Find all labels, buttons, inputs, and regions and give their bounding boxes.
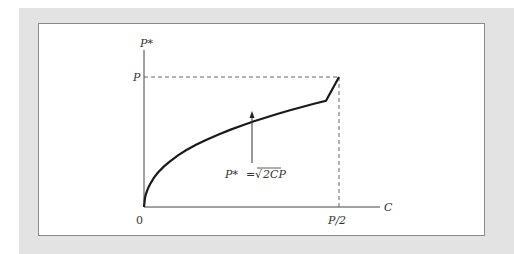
formula-lhs: P*: [224, 168, 238, 181]
x-axis-label: C: [384, 201, 393, 214]
formula-radicand: 2CP: [262, 168, 286, 181]
sqrt-curve: [144, 77, 339, 207]
y-tick-label-P: P: [132, 71, 141, 84]
formula-radical-sign: √: [255, 168, 263, 181]
y-axis-label: P*: [139, 37, 153, 50]
x-tick-label-P-half: P/2: [327, 214, 346, 227]
plot-svg: P* P 0 P/2 C P* = √ 2CP: [0, 0, 514, 254]
formula-equals: =: [246, 168, 255, 181]
origin-label: 0: [136, 214, 143, 227]
annotation-arrow-head: [250, 111, 255, 118]
